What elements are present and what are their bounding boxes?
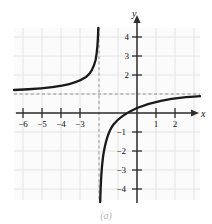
y-tick-label: −1 — [110, 127, 126, 137]
y-tick-label: 4 — [113, 32, 129, 42]
y-tick-label: −4 — [110, 184, 126, 194]
y-tick-label: −2 — [110, 146, 126, 156]
figure-caption: (a) — [0, 206, 212, 222]
x-tick-label: 1 — [147, 119, 165, 129]
x-tick-label: −6 — [14, 119, 32, 129]
y-axis-label: y — [132, 8, 136, 19]
figure-container: y x −6 −5 −4 −3 1 2 4 3 2 −1 −2 −3 −4 (a… — [0, 0, 212, 224]
y-tick-label: 3 — [113, 51, 129, 61]
x-tick-label: −5 — [33, 119, 51, 129]
x-tick-label: −3 — [71, 119, 89, 129]
y-tick-label: 2 — [113, 70, 129, 80]
x-tick-label: 2 — [166, 119, 184, 129]
y-tick-label: −3 — [110, 165, 126, 175]
x-tick-label: −4 — [52, 119, 70, 129]
x-axis-label: x — [201, 108, 205, 119]
rational-function-plot — [0, 0, 212, 224]
